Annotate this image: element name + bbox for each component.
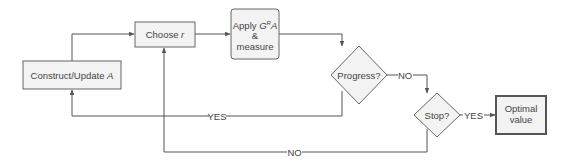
label-stop-no: NO <box>287 147 301 158</box>
edge-progress-yes-to-construct-2 <box>72 90 209 116</box>
label-progress-no: NO <box>398 70 412 81</box>
label-stop-yes: YES <box>464 110 483 121</box>
node-construct-label: Construct/Update <box>31 70 108 81</box>
node-apply-measure: Apply GRA & measure <box>231 9 279 59</box>
node-choose-r: Choose r <box>135 22 195 47</box>
node-optimal-line1: Optimal <box>505 103 538 114</box>
label-progress-yes: YES <box>207 111 226 122</box>
node-apply-a: A <box>270 20 277 31</box>
node-progress-decision: Progress? <box>331 46 387 104</box>
flowchart-canvas: NO YES YES NO Construct/Update A Choose … <box>0 0 566 162</box>
node-stop-decision: Stop? <box>414 93 460 137</box>
node-construct-var: A <box>106 70 113 81</box>
edge-progress-yes-to-construct <box>226 91 342 116</box>
node-optimal-line2: value <box>510 114 533 125</box>
svg-text:Construct/Update A: Construct/Update A <box>31 70 114 81</box>
node-apply-g: G <box>259 20 266 31</box>
node-progress-label: Progress? <box>337 70 380 81</box>
node-choose-label: Choose <box>146 29 181 40</box>
node-stop-label: Stop? <box>425 110 450 121</box>
edge-progress-no-to-stop-2 <box>413 75 427 93</box>
edge-stop-no-to-choose-2 <box>164 48 287 152</box>
edge-apply-to-progress <box>279 34 342 46</box>
node-apply-measure-text: measure <box>237 41 274 52</box>
edge-construct-to-choose <box>72 34 134 61</box>
edge-stop-no-to-choose <box>302 129 427 152</box>
node-apply-amp: & <box>252 30 259 41</box>
svg-text:Choose r: Choose r <box>146 29 185 40</box>
node-optimal-value: Optimal value <box>496 96 546 134</box>
node-construct-update: Construct/Update A <box>23 61 121 89</box>
